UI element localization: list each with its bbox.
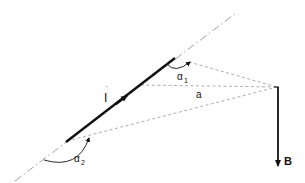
alpha1-subscript: 1 [184,77,188,84]
alpha1-label: α [177,71,183,82]
alpha2-subscript: 2 [81,159,85,166]
current-label: I [104,91,107,105]
alpha2-label: α [74,153,80,164]
dashed-line-alpha2 [67,87,277,141]
diagram-canvas: I · α 1 a α 2 B [0,0,305,183]
field-B-label: B [284,155,292,167]
current-direction-arrow-icon [116,96,127,105]
current-label-dot: · [106,82,109,91]
dashed-line-alpha1 [189,62,277,87]
distance-label: a [196,89,202,100]
dashed-line-distance-a [141,85,277,87]
